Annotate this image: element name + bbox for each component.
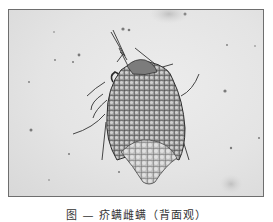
micrograph-figure — [8, 9, 264, 197]
figure-caption: 图 — 疥螨雌螨（背面观） — [0, 209, 273, 222]
mite-illustration — [9, 10, 264, 197]
